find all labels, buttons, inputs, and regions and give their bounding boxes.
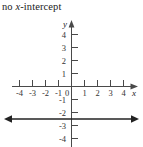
line-left-arrow-icon (4, 115, 12, 122)
y-tick-label--3: -3 (59, 121, 66, 131)
y-tick-label--1: -1 (59, 95, 66, 105)
coordinate-plane: y x -4 -3 -2 (0, 14, 143, 147)
graph-figure: no x-intercept y x (0, 0, 143, 147)
y-tick-label-4: 4 (62, 30, 67, 40)
x-tick-label--4: -4 (16, 88, 24, 98)
x-tick-label-3: 3 (108, 88, 112, 98)
y-tick-label--4: -4 (59, 134, 67, 144)
y-axis-arrow-icon (69, 20, 75, 28)
y-axis-label: y (62, 19, 67, 29)
x-axis-label: x (131, 88, 136, 98)
x-tick-label-2: 2 (95, 88, 99, 98)
x-tick-label-1: 1 (82, 88, 86, 98)
y-tick-label-3: 3 (62, 43, 66, 53)
x-tick-label-4: 4 (121, 88, 126, 98)
x-tick-label--2: -2 (42, 88, 49, 98)
x-tick-label--3: -3 (29, 88, 36, 98)
caption-suffix: -intercept (20, 1, 61, 12)
y-tick-label-1: 1 (62, 69, 66, 79)
y-tick-label-2: 2 (62, 56, 66, 66)
line-right-arrow-icon (131, 115, 139, 122)
y-tick-label--2: -2 (59, 108, 66, 118)
figure-caption: no x-intercept (2, 1, 61, 12)
caption-prefix: no (2, 1, 15, 12)
